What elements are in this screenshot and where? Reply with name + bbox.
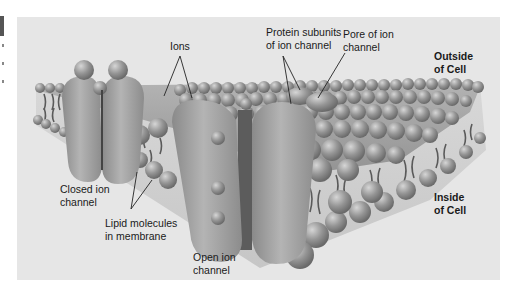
label-protein-subunits-2: of ion channel xyxy=(266,39,331,51)
label-inside-of-cell-1: Inside xyxy=(434,191,464,203)
membrane-illustration xyxy=(0,0,519,298)
label-ions: Ions xyxy=(170,40,190,52)
label-protein-subunits-1: Protein subunits xyxy=(266,26,341,38)
label-closed-ion-channel-1: Closed ion xyxy=(60,183,110,195)
closed-ion-channel xyxy=(62,60,144,184)
label-open-ion-channel-2: channel xyxy=(193,264,230,276)
label-lipid-molecules-1: Lipid molecules xyxy=(105,217,177,229)
label-pore-1: Pore of ion xyxy=(343,28,394,40)
label-outside-of-cell-1: Outside xyxy=(434,50,473,62)
label-closed-ion-channel-2: channel xyxy=(60,196,97,208)
label-pore-2: channel xyxy=(343,41,380,53)
label-outside-of-cell-2: of Cell xyxy=(434,63,466,75)
open-ion-channel xyxy=(172,98,316,264)
label-inside-of-cell-2: of Cell xyxy=(434,204,466,216)
label-open-ion-channel-1: Open ion xyxy=(193,251,236,263)
label-lipid-molecules-2: in membrane xyxy=(105,230,166,242)
